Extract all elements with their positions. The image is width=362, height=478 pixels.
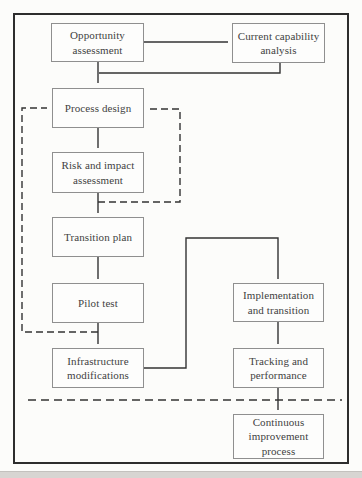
node-current-capability-analysis: Current capability analysis: [232, 23, 325, 63]
node-risk-and-impact-assessment: Risk and impact assessment: [52, 152, 144, 193]
node-continuous-improvement-process: Continuous improvement process: [233, 414, 324, 459]
node-process-design: Process design: [52, 88, 144, 128]
node-label: Process design: [63, 100, 133, 116]
node-label: Tracking and performance: [247, 353, 310, 383]
node-label: Current capability analysis: [236, 28, 322, 58]
node-label: Continuous improvement process: [247, 414, 311, 458]
edge-capability-to-process-join: [99, 63, 280, 73]
node-opportunity-assessment: Opportunity assessment: [51, 23, 144, 62]
node-label: Opportunity assessment: [68, 27, 127, 57]
node-implementation-and-transition: Implementation and transition: [233, 283, 324, 322]
node-label: Infrastructure modifications: [65, 353, 131, 383]
flowchart-figure: Opportunity assessment Current capabilit…: [0, 0, 362, 478]
node-pilot-test: Pilot test: [52, 283, 144, 323]
node-label: Risk and impact assessment: [60, 157, 137, 187]
page-edge-strip: [0, 471, 362, 478]
node-label: Transition plan: [62, 229, 134, 245]
node-tracking-and-performance: Tracking and performance: [233, 348, 324, 388]
node-transition-plan: Transition plan: [52, 217, 144, 257]
node-label: Pilot test: [76, 295, 120, 311]
node-infrastructure-modifications: Infrastructure modifications: [52, 348, 144, 388]
node-label: Implementation and transition: [241, 287, 316, 317]
